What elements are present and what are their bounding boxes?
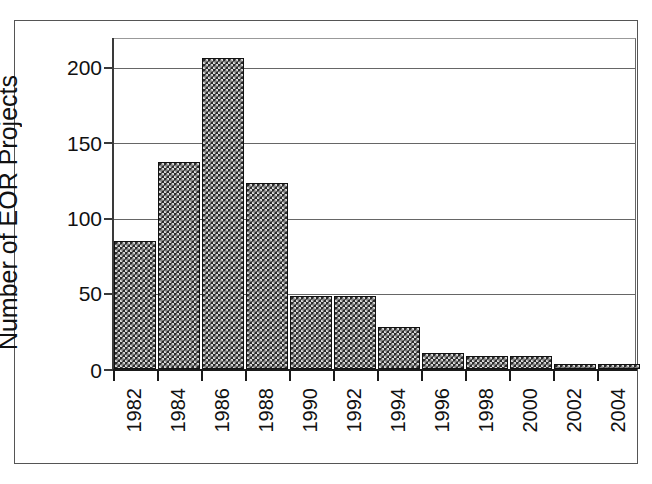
x-tick-mark-1984 [157,370,159,381]
x-tick-label-2002: 2002 [563,388,586,433]
x-tick-label-2000: 2000 [519,388,542,433]
x-tick-mark-1982 [113,370,115,381]
x-tick-label-2004: 2004 [607,388,630,433]
x-tick-label-1988: 1988 [255,388,278,433]
x-tick-mark-1992 [333,370,335,381]
x-tick-label-1986: 1986 [211,388,234,433]
x-tick-label-1998: 1998 [475,388,498,433]
x-tick-mark-1988 [245,370,247,381]
x-tick-mark-2002 [553,370,555,381]
x-tick-label-1984: 1984 [167,388,190,433]
x-tick-mark-1986 [201,370,203,381]
y-tick-label-0: 0 [90,360,102,381]
x-tick-mark-1996 [421,370,423,381]
bar-1994 [378,327,420,369]
bar-1996 [422,353,464,369]
x-tick-label-1996: 1996 [431,388,454,433]
x-tick-label-1990: 1990 [299,388,322,433]
x-axis-line [112,369,637,371]
y-axis-title: Number of EOR Projects [0,75,314,350]
x-tick-label-1994: 1994 [387,388,410,433]
bar-1992 [334,296,376,369]
x-tick-mark-2000 [509,370,511,381]
chart-figure: 200 150 100 50 0 1982 1984 1986 1988 199… [0,0,652,484]
bar-2000 [510,356,552,369]
x-tick-mark-1994 [377,370,379,381]
x-tick-mark-2004 [597,370,599,381]
x-tick-label-1992: 1992 [343,388,366,433]
y-tick-mark-200 [104,67,113,69]
y-tick-mark-0 [104,369,113,371]
bar-1998 [466,356,508,369]
x-tick-mark-1998 [465,370,467,381]
x-tick-mark-1990 [289,370,291,381]
x-tick-label-1982: 1982 [123,388,146,433]
